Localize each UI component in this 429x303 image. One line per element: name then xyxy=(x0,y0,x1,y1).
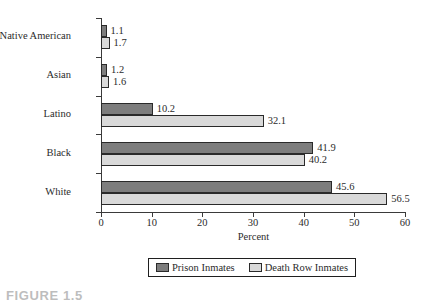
bar-0 xyxy=(101,142,313,154)
bar-value-label: 56.5 xyxy=(391,193,409,205)
x-axis-tick-label: 60 xyxy=(385,217,425,228)
y-axis-tick xyxy=(96,96,101,97)
bar-value-label: 41.9 xyxy=(317,142,335,154)
category-label: Latino xyxy=(0,109,71,120)
category-label: Asian xyxy=(0,70,71,81)
category-label: Black xyxy=(0,148,71,159)
bar-0 xyxy=(101,103,153,115)
bar-0 xyxy=(101,64,107,76)
bar-value-label: 10.2 xyxy=(157,103,175,115)
legend-label: Death Row Inmates xyxy=(265,262,348,273)
bar-0 xyxy=(101,25,107,37)
y-axis-tick xyxy=(96,173,101,174)
y-axis-tick xyxy=(96,134,101,135)
bar-1 xyxy=(101,37,110,49)
bar-value-label: 40.2 xyxy=(309,154,327,166)
bar-value-label: 1.6 xyxy=(113,76,126,88)
plot-area: Native American1.11.7Asian1.21.6Latino10… xyxy=(101,18,405,212)
bar-1 xyxy=(101,76,109,88)
x-axis-tick-label: 0 xyxy=(81,217,121,228)
x-axis-tick-label: 40 xyxy=(284,217,324,228)
bar-1 xyxy=(101,115,264,127)
x-axis-tick-label: 50 xyxy=(334,217,374,228)
legend-item: Prison Inmates xyxy=(156,262,235,273)
category-label: Native American xyxy=(0,31,71,42)
legend-item: Death Row Inmates xyxy=(249,262,348,273)
bar-1 xyxy=(101,193,387,205)
chart-legend: Prison InmatesDeath Row Inmates xyxy=(148,258,356,277)
x-axis-tick-label: 10 xyxy=(132,217,172,228)
figure-caption: FIGURE 1.5 xyxy=(6,288,83,303)
bar-value-label: 1.7 xyxy=(114,37,127,49)
bar-value-label: 1.2 xyxy=(111,64,124,76)
x-axis-tick-label: 20 xyxy=(182,217,222,228)
bar-1 xyxy=(101,154,305,166)
bar-0 xyxy=(101,181,332,193)
x-axis-title: Percent xyxy=(101,231,406,242)
legend-swatch-icon xyxy=(249,263,262,272)
legend-swatch-icon xyxy=(156,263,169,272)
legend-label: Prison Inmates xyxy=(172,262,235,273)
x-axis-tick-label: 30 xyxy=(233,217,273,228)
category-label: White xyxy=(0,187,71,198)
y-axis-tick xyxy=(96,57,101,58)
bar-value-label: 32.1 xyxy=(268,115,286,127)
bar-value-label: 1.1 xyxy=(111,25,124,37)
bar-value-label: 45.6 xyxy=(336,181,354,193)
y-axis-tick xyxy=(96,18,101,19)
